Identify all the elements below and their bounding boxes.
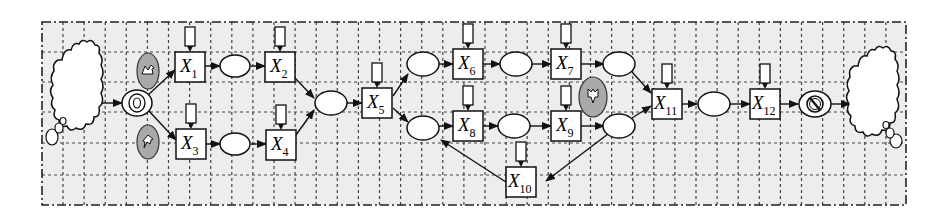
place-p3[interactable] xyxy=(315,91,347,115)
input-tab-icon xyxy=(561,24,571,43)
end-event-icon[interactable] xyxy=(799,91,831,117)
event-down-arrow-icon[interactable] xyxy=(579,77,607,117)
place-p6[interactable] xyxy=(500,52,532,76)
input-tab-icon xyxy=(516,142,526,161)
place-p2[interactable] xyxy=(220,133,250,155)
input-tab-icon xyxy=(662,64,672,83)
event-zigzag-arrow-icon[interactable] xyxy=(137,53,159,89)
input-tab-icon xyxy=(275,27,285,46)
input-tab-icon xyxy=(372,63,382,82)
input-tab-icon xyxy=(463,24,473,43)
input-tab-icon xyxy=(276,105,286,124)
input-tab-icon xyxy=(760,64,770,83)
place-p10[interactable] xyxy=(698,92,730,116)
place-p1[interactable] xyxy=(220,55,250,77)
input-tab-icon xyxy=(186,104,196,123)
place-p9[interactable] xyxy=(603,114,635,138)
place-p4[interactable] xyxy=(407,52,439,76)
start-event-icon[interactable] xyxy=(122,90,152,116)
event-hook-arrow-icon[interactable] xyxy=(137,125,159,159)
place-p8[interactable] xyxy=(498,114,530,138)
input-tab-icon xyxy=(185,27,195,46)
workflow-diagram: X1X2X3X4X5X6X7X8X9X10X11X12 xyxy=(0,0,943,217)
input-tab-icon xyxy=(561,86,571,105)
place-p5[interactable] xyxy=(407,116,439,140)
input-tab-icon xyxy=(463,86,473,105)
place-p7[interactable] xyxy=(603,52,635,76)
